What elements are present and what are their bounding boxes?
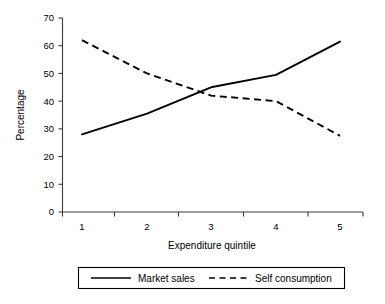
y-tick-label-20: 20 <box>43 151 54 162</box>
x-tick-label-3: 3 <box>208 221 213 232</box>
y-tick-label-30: 30 <box>43 123 54 134</box>
y-tick-label-60: 60 <box>43 40 54 51</box>
legend-label-self-consumption: Self consumption <box>255 273 332 284</box>
series-market-sales <box>82 42 340 135</box>
y-axis-tick-labels: 0 10 20 30 40 50 60 70 <box>43 12 54 217</box>
x-axis-title: Expenditure quintile <box>168 240 256 251</box>
chart-figure: 0 10 20 30 40 50 60 70 1 2 3 4 5 Expend <box>0 0 385 304</box>
legend-label-market-sales: Market sales <box>138 273 195 284</box>
y-axis-title: Percentage <box>15 89 26 141</box>
y-tick-label-10: 10 <box>43 179 54 190</box>
y-axis-ticks <box>59 18 63 212</box>
x-tick-label-5: 5 <box>337 221 342 232</box>
x-axis-tick-labels: 1 2 3 4 5 <box>79 221 342 232</box>
x-tick-label-2: 2 <box>144 221 149 232</box>
y-tick-label-70: 70 <box>43 12 54 23</box>
x-tick-label-1: 1 <box>79 221 84 232</box>
chart-legend: Market sales Self consumption <box>79 268 345 289</box>
line-chart: 0 10 20 30 40 50 60 70 1 2 3 4 5 Expend <box>0 0 385 304</box>
y-tick-label-40: 40 <box>43 96 54 107</box>
x-axis-ticks <box>63 212 364 217</box>
y-tick-label-0: 0 <box>49 206 54 217</box>
x-tick-label-4: 4 <box>273 221 278 232</box>
y-tick-label-50: 50 <box>43 68 54 79</box>
